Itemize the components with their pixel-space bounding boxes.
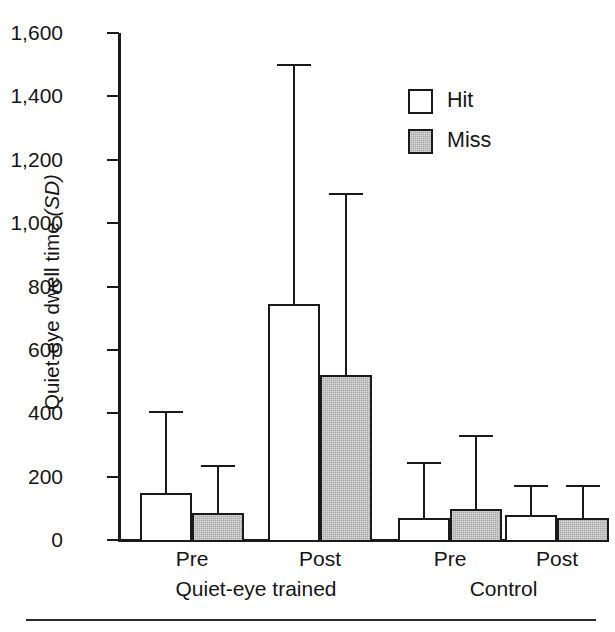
bar-miss-pre-2	[450, 509, 502, 542]
legend-label-hit: Hit	[447, 90, 473, 112]
y-axis-tick	[107, 286, 119, 288]
x-axis-group-label-1: Control	[354, 578, 615, 599]
error-bar-cap	[277, 64, 311, 66]
y-axis-tick-label: 800	[0, 276, 63, 297]
bar-miss-post-3	[557, 518, 609, 542]
bottom-rule-divider	[26, 619, 596, 621]
error-bar-stem	[293, 64, 295, 304]
bar-hit-post-3	[505, 515, 557, 542]
error-bar-stem	[475, 435, 477, 509]
error-bar-cap	[407, 462, 441, 464]
y-axis-tick	[107, 95, 119, 97]
legend: HitMiss	[408, 83, 491, 163]
y-axis-tick	[107, 222, 119, 224]
y-axis-tick	[107, 349, 119, 351]
bar-hit-pre-2	[398, 518, 450, 542]
y-axis-tick	[107, 32, 119, 34]
y-axis-tick-label: 0	[0, 529, 63, 550]
y-axis-tick-label: 1,600	[0, 22, 63, 43]
legend-swatch-miss	[408, 129, 433, 154]
error-bar-cap	[201, 465, 235, 467]
y-axis-tick-label: 1,200	[0, 149, 63, 170]
y-axis-tick	[107, 412, 119, 414]
x-axis-tick-label-0: Pre	[132, 548, 252, 569]
y-axis-tick-label: 600	[0, 339, 63, 360]
legend-label-miss: Miss	[447, 130, 491, 152]
bar-miss-post-1	[320, 375, 372, 542]
y-axis-tick-label: 400	[0, 402, 63, 423]
y-axis-tick	[107, 539, 119, 541]
error-bar-cap	[566, 485, 600, 487]
error-bar-stem	[345, 193, 347, 375]
y-axis-title-sd: (SD)	[40, 174, 63, 217]
y-axis-tick-label: 200	[0, 466, 63, 487]
x-axis-tick-label-3: Post	[497, 548, 615, 569]
y-axis-tick-label: 1,400	[0, 85, 63, 106]
legend-item-hit: Hit	[408, 83, 491, 119]
legend-swatch-hit	[408, 89, 433, 114]
bar-hit-pre-0	[140, 493, 192, 542]
bar-miss-pre-0	[192, 513, 244, 542]
legend-item-miss: Miss	[408, 123, 491, 159]
x-axis-tick-label-1: Post	[260, 548, 380, 569]
y-axis-tick	[107, 159, 119, 161]
error-bar-stem	[165, 411, 167, 493]
y-axis-tick-label: 1,000	[0, 212, 63, 233]
error-bar-cap	[514, 485, 548, 487]
error-bar-cap	[149, 411, 183, 413]
error-bar-stem	[217, 465, 219, 513]
error-bar-stem	[530, 485, 532, 515]
x-axis-tick-label-2: Pre	[390, 548, 510, 569]
error-bar-cap	[329, 193, 363, 195]
bar-chart-figure: Quiet-eye dwell time (SD) 02004006008001…	[0, 0, 615, 632]
y-axis-tick	[107, 476, 119, 478]
error-bar-stem	[582, 485, 584, 519]
y-axis-title-text: Quiet-eye dwell time	[40, 217, 63, 411]
error-bar-cap	[459, 435, 493, 437]
bar-hit-post-1	[268, 304, 320, 542]
error-bar-stem	[423, 462, 425, 518]
